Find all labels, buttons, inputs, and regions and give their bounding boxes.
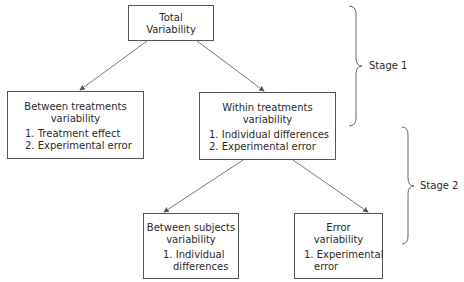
stage-1-label: Stage 1	[369, 60, 407, 71]
node-title-line: Between subjects	[144, 222, 238, 234]
node-title-line: Between treatments	[8, 101, 143, 113]
node-within-treatments: Within treatments variability 1. Individ…	[199, 92, 336, 160]
arrow-within-to-error	[293, 160, 368, 212]
arrow-within-to-subjects	[164, 160, 243, 212]
node-item: 2. Experimental error	[209, 141, 335, 153]
node-title-line: Error	[295, 222, 382, 234]
brace-stage-2	[402, 127, 414, 244]
node-item: 1. Individual	[163, 249, 238, 261]
node-item: differences	[163, 261, 238, 273]
node-title-line: variability	[295, 234, 382, 246]
node-between-treatments: Between treatments variability 1. Treatm…	[7, 91, 144, 159]
stage-2-label: Stage 2	[420, 180, 458, 191]
node-title-line: Variability	[129, 24, 213, 36]
node-item: 1. Individual differences	[209, 129, 335, 141]
node-item: 2. Experimental error	[25, 140, 143, 152]
arrow-total-to-within	[197, 41, 264, 91]
node-item: error	[304, 261, 382, 273]
node-title-line: Within treatments	[200, 102, 335, 114]
node-error-variability: Error variability 1. Experimental error	[294, 213, 383, 279]
node-total-variability: Total Variability	[128, 5, 214, 41]
node-title-line: variability	[200, 114, 335, 126]
node-between-subjects: Between subjects variability 1. Individu…	[143, 213, 239, 279]
node-item: 1. Experimental	[304, 249, 382, 261]
node-title-line: variability	[144, 234, 238, 246]
node-item: 1. Treatment effect	[25, 128, 143, 140]
node-title-line: Total	[129, 12, 213, 24]
node-title-line: variability	[8, 113, 143, 125]
arrow-total-to-between	[80, 41, 147, 90]
brace-stage-1	[349, 6, 362, 126]
